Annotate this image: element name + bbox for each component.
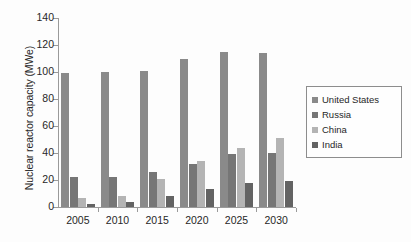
x-tick-mark [137, 208, 138, 212]
x-tick-mark [177, 208, 178, 212]
x-axis-label: 2020 [177, 214, 217, 226]
chart-legend: United StatesRussiaChinaIndia [306, 86, 402, 158]
y-tick-label: 0 [48, 200, 54, 212]
bar [157, 179, 165, 207]
y-tick-label: 60 [42, 119, 54, 131]
bar [245, 183, 253, 207]
y-tick-label: 120 [36, 38, 54, 50]
x-axis-label: 2030 [256, 214, 296, 226]
x-axis-label: 2005 [58, 214, 98, 226]
bar [166, 196, 174, 207]
bar [228, 154, 236, 207]
legend-item: China [312, 122, 397, 137]
bar [285, 181, 293, 207]
bar [276, 138, 284, 207]
bar [118, 196, 126, 207]
y-tick-label: 140 [36, 11, 54, 23]
bar-group [180, 18, 214, 207]
bar-group [61, 18, 95, 207]
legend-label: Russia [322, 109, 351, 120]
legend-label: United States [322, 94, 379, 105]
y-axis-title: Nuclear reactor capacity (MWe) [23, 23, 35, 213]
bar-group [259, 18, 293, 207]
x-tick-mark [217, 208, 218, 212]
x-axis-label: 2010 [98, 214, 138, 226]
x-tick-mark [256, 208, 257, 212]
bar [237, 148, 245, 207]
legend-label: China [322, 124, 347, 135]
bar [109, 177, 117, 207]
x-axis-label: 2025 [217, 214, 257, 226]
bar [268, 153, 276, 207]
bar [206, 189, 214, 207]
bar [140, 71, 148, 207]
legend-swatch-icon [312, 127, 318, 133]
bar-group [220, 18, 254, 207]
bar-chart-figure: Nuclear reactor capacity (MWe) 020406080… [0, 0, 411, 242]
legend-item: Russia [312, 107, 397, 122]
y-tick-label: 40 [42, 146, 54, 158]
legend-swatch-icon [312, 112, 318, 118]
bar [78, 198, 86, 207]
bar [126, 202, 134, 207]
legend-swatch-icon [312, 142, 318, 148]
bar [197, 161, 205, 207]
bar [87, 204, 95, 207]
bar [180, 59, 188, 208]
y-tick-label: 80 [42, 92, 54, 104]
bar [61, 73, 69, 207]
bar-group [101, 18, 135, 207]
bar [189, 164, 197, 207]
legend-label: India [322, 139, 343, 150]
bar [70, 177, 78, 207]
y-axis-line [58, 18, 59, 208]
bar [220, 52, 228, 207]
y-tick-label: 20 [42, 173, 54, 185]
bar-group [140, 18, 174, 207]
bar [101, 72, 109, 207]
legend-item: India [312, 137, 397, 152]
bar [149, 172, 157, 207]
bar [259, 53, 267, 207]
y-tick-label: 100 [36, 65, 54, 77]
plot-area: 020406080100120140 200520102015202020252… [58, 18, 296, 208]
legend-item: United States [312, 92, 397, 107]
legend-swatch-icon [312, 97, 318, 103]
x-tick-mark [296, 208, 297, 212]
x-tick-mark [98, 208, 99, 212]
x-axis-label: 2015 [137, 214, 177, 226]
